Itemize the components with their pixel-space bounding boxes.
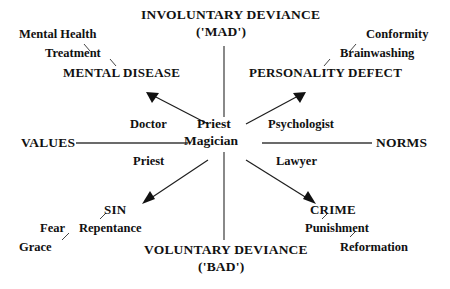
arrow-head-upper-right [293, 92, 306, 103]
satellite-fear: Fear [40, 222, 65, 235]
axis-pole-right: NORMS [376, 136, 427, 150]
outcome-personality-defect: PERSONALITY DEFECT [249, 66, 402, 80]
satellite-punishment: Punishment [305, 222, 369, 235]
axis-pole-left: VALUES [21, 136, 75, 150]
outcome-sin: SIN [104, 203, 126, 217]
diagram-canvas: INVOLUNTARY DEVIANCE ('MAD') VOLUNTARY D… [0, 0, 450, 289]
axis-pole-top-line2: ('MAD') [196, 25, 246, 39]
satellite-repentance: Repentance [79, 222, 142, 235]
arrow-head-lower-left [142, 191, 155, 204]
satellite-brainwashing: Brainwashing [340, 47, 414, 60]
axis-pole-top-line1: INVOLUNTARY DEVIANCE [141, 8, 320, 22]
axis-pole-bottom-line2: ('BAD') [198, 260, 244, 274]
satellite-grace: Grace [19, 241, 52, 254]
arrow-head-upper-left [146, 92, 159, 103]
center-node-line2: Magician [184, 134, 238, 148]
role-priest: Priest [133, 155, 164, 168]
satellite-conformity: Conformity [366, 28, 429, 41]
outcome-mental-disease: MENTAL DISEASE [63, 66, 180, 80]
axis-pole-bottom-line1: VOLUNTARY DEVIANCE [144, 243, 308, 257]
satellite-reformation: Reformation [340, 241, 408, 254]
outcome-crime: CRIME [310, 203, 356, 217]
center-node-line1: Priest [197, 117, 231, 131]
satellite-treatment: Treatment [45, 47, 101, 60]
satellite-mental-health: Mental Health [19, 28, 96, 41]
role-doctor: Doctor [130, 118, 167, 131]
role-psychologist: Psychologist [268, 118, 334, 131]
role-lawyer: Lawyer [276, 155, 317, 168]
